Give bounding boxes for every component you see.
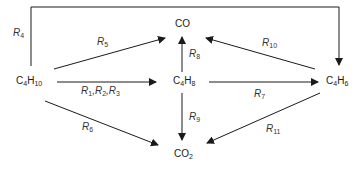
r10-sub: 10 [269, 42, 277, 49]
node-c4h10: C4H10 [16, 76, 42, 87]
arrow-r10 [206, 38, 315, 69]
node-c4h6: C4H6 [326, 76, 348, 87]
co2-co: CO [174, 148, 189, 159]
label-r4: R4 [13, 28, 24, 39]
r4-sub: 4 [20, 32, 24, 39]
node-c4h8: C4H8 [173, 76, 195, 87]
r8-sub: 8 [196, 53, 200, 60]
r3-r: R [109, 85, 116, 96]
arrow-r6 [45, 101, 158, 145]
label-r9: R9 [189, 112, 200, 123]
co-label: CO [175, 18, 190, 29]
label-r6: R6 [82, 122, 93, 133]
c4h10-h-count: 10 [34, 80, 42, 87]
r7-sub: 7 [261, 93, 265, 100]
r9-sub: 9 [196, 116, 200, 123]
label-r7: R7 [254, 89, 265, 100]
label-r11: R11 [266, 124, 281, 135]
arrow-r4 [31, 7, 339, 66]
c4h6-h-count: 6 [344, 80, 348, 87]
r11-sub: 11 [273, 128, 280, 135]
label-r5: R5 [97, 37, 108, 48]
r3-sub: 3 [116, 90, 120, 97]
r5-sub: 5 [104, 41, 108, 48]
r6-sub: 6 [89, 126, 93, 133]
label-r8: R8 [189, 49, 200, 60]
arrow-r5 [54, 38, 165, 69]
label-r10: R10 [262, 38, 277, 49]
node-co: CO [175, 19, 190, 29]
node-co2: CO2 [174, 149, 193, 160]
arrow-r11 [207, 93, 320, 143]
label-r123: R1,R2,R3 [81, 86, 120, 97]
c4h8-h-count: 8 [191, 80, 195, 87]
co2-count: 2 [189, 153, 193, 160]
